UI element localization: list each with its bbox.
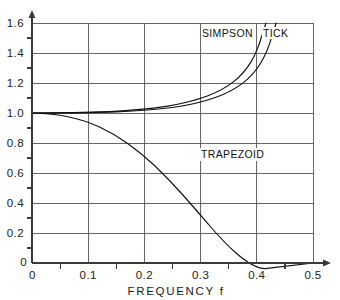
y-tick-label-1.2: 1.2 [7,77,24,89]
series-label-simpson: SIMPSON [202,27,253,39]
x-tick-label-0.2: 0.2 [136,269,153,281]
y-tick-label-0: 0 [20,256,27,268]
chart-svg: SIMPSON TICK TRAPEZOID [0,0,340,300]
y-tick-label-0.6: 0.6 [7,167,24,179]
y-tick-label-0.4: 0.4 [7,197,24,209]
x-axis-title: FREQUENCY f [127,285,224,297]
y-tick-label-1.6: 1.6 [7,17,24,29]
x-tick-label-0: 0 [29,269,35,281]
y-tick-label-0.8: 0.8 [7,137,24,149]
series-label-trapezoid: TRAPEZOID [201,148,264,160]
chart-background [0,0,340,300]
y-tick-label-0.2: 0.2 [7,227,24,239]
x-tick-label-0.3: 0.3 [192,269,209,281]
y-tick-label-1.0: 1.0 [7,107,24,119]
x-tick-label-0.1: 0.1 [80,269,97,281]
series-label-tick: TICK [263,27,288,39]
x-tick-label-0.4: 0.4 [248,269,265,281]
x-tick-label-0.5: 0.5 [304,269,321,281]
chart-figure: SIMPSON TICK TRAPEZOID [0,0,340,300]
y-tick-label-1.4: 1.4 [7,47,24,59]
